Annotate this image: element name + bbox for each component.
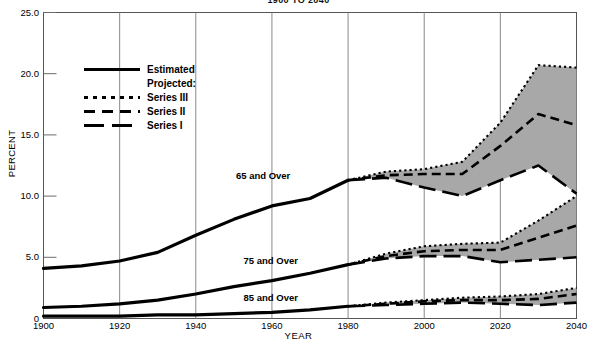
chart-root: 1900 TO 2040 PERCENT YEAR 05.010.015.020… [0, 0, 597, 342]
legend-key-empty [84, 78, 140, 88]
y-tick-label: 15.0 [0, 129, 39, 140]
y-tick-label: 10.0 [0, 190, 39, 201]
series-annotation-1: 65 and Over [236, 170, 290, 181]
x-tick-label: 1940 [170, 320, 222, 331]
legend-item-series-iii: Series III [84, 90, 196, 104]
series-annotation-3: 85 and Over [244, 292, 298, 303]
legend-label-series-i: Series I [147, 120, 183, 131]
legend-label-estimated: Estimated [147, 64, 195, 75]
chart-plot-area [0, 0, 597, 342]
legend-item-estimated: Estimated [84, 62, 196, 76]
projection-band-2 [348, 196, 576, 265]
legend-key-dashed-line-icon [84, 106, 140, 116]
y-tick-label: 25.0 [0, 7, 39, 18]
legend-key-long-dash-line-icon [84, 120, 140, 130]
x-tick-label: 1900 [18, 320, 70, 331]
y-tick-label: 20.0 [0, 68, 39, 79]
x-tick-label: 1980 [322, 320, 374, 331]
x-axis-title: YEAR [0, 330, 597, 341]
x-tick-label: 1920 [94, 320, 146, 331]
legend-key-dotted-line-icon [84, 92, 140, 102]
legend-heading-projected: Projected: [84, 76, 196, 90]
x-tick-label: 2040 [551, 320, 597, 331]
legend-item-series-ii: Series II [84, 104, 196, 118]
x-tick-label: 1960 [246, 320, 298, 331]
legend-item-series-i: Series I [84, 118, 196, 132]
legend-key-solid-line-icon [84, 64, 140, 74]
chart-legend: Estimated Projected: Series III Series I… [84, 62, 196, 132]
series-annotation-2: 75 and Over [244, 255, 298, 266]
legend-label-projected: Projected: [147, 78, 196, 89]
y-tick-label: 5.0 [0, 251, 39, 262]
x-tick-label: 2020 [474, 320, 526, 331]
legend-label-series-iii: Series III [147, 92, 188, 103]
legend-label-series-ii: Series II [147, 106, 185, 117]
x-tick-label: 2000 [398, 320, 450, 331]
